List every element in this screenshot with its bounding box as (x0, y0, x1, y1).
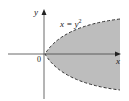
curve-label: x = y2 (59, 18, 82, 29)
origin-label: 0 (37, 55, 41, 64)
shaded-region (45, 19, 120, 90)
x-axis-label: x (115, 56, 120, 66)
region-diagram: y x 0 x = y2 (0, 0, 129, 101)
y-axis-label: y (33, 7, 38, 17)
y-axis-arrow-icon (42, 9, 47, 15)
curve-label-exponent: 2 (79, 18, 82, 24)
